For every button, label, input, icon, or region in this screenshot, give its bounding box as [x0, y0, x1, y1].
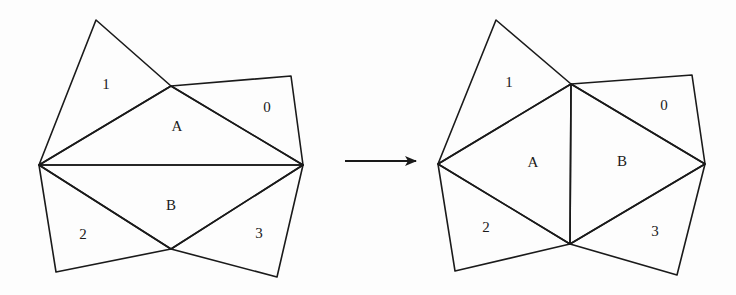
label-3: 3 [255, 225, 263, 241]
label-B: B [166, 197, 176, 213]
triangle-0 [571, 75, 705, 164]
label-3: 3 [651, 223, 659, 239]
label-1: 1 [102, 76, 110, 92]
triangle-3 [171, 165, 303, 277]
label-B: B [617, 153, 627, 169]
label-2: 2 [79, 226, 87, 242]
label-A: A [172, 118, 183, 134]
triangle-1 [39, 20, 171, 165]
label-1: 1 [505, 74, 513, 90]
triangle-3 [570, 164, 705, 275]
triangle-1 [438, 20, 571, 164]
triangle-B [570, 84, 705, 244]
triangle-2 [39, 165, 171, 272]
label-0: 0 [660, 97, 668, 113]
label-2: 2 [482, 219, 490, 235]
triangle-2 [438, 164, 570, 271]
triangle-0 [171, 76, 303, 165]
triangulation-after: 1 0 A B 2 3 [438, 20, 705, 275]
diagram-canvas: 1 0 A B 2 3 1 0 A B 2 3 [0, 0, 736, 295]
triangle-A [438, 84, 571, 244]
edge-flip-diagram: 1 0 A B 2 3 1 0 A B 2 3 [0, 0, 736, 295]
triangulation-before: 1 0 A B 2 3 [39, 20, 303, 277]
label-0: 0 [263, 99, 271, 115]
label-A: A [528, 154, 539, 170]
